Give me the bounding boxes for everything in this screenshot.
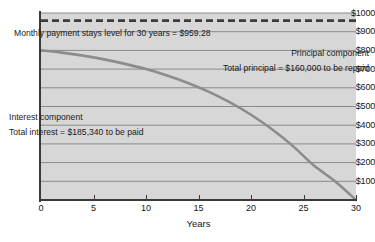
y-axis-tick-label: $300 <box>339 139 375 148</box>
x-axis-tick-mark <box>94 195 95 200</box>
x-axis-tick-label: 20 <box>239 204 263 213</box>
x-axis-tick-label: 5 <box>82 204 106 213</box>
x-axis-tick-mark <box>199 195 200 200</box>
y-axis-tick-label: $100 <box>339 177 375 186</box>
series-layer <box>41 13 356 200</box>
annotation-interest-total: Total interest = $185,340 to be paid <box>9 127 144 137</box>
y-axis-tick-label: $400 <box>339 121 375 130</box>
x-axis-tick-label: 25 <box>292 204 316 213</box>
x-axis-tick-mark <box>356 195 357 200</box>
y-axis-tick-label: $200 <box>339 158 375 167</box>
gridlines-group <box>41 13 356 181</box>
x-axis-title: Years <box>41 218 356 229</box>
annotation-interest-component: Interest component <box>9 112 83 122</box>
x-axis-tick-label: 30 <box>344 204 368 213</box>
y-axis-tick-label: $500 <box>339 102 375 111</box>
annotation-monthly-payment: Monthly payment stays level for 30 years… <box>14 28 211 38</box>
x-axis-tick-mark <box>304 195 305 200</box>
annotation-principal-total: Total principal = $160,000 to be repaid <box>223 63 369 73</box>
y-axis-tick-label: $1000 <box>339 9 375 18</box>
x-axis-tick-label: 10 <box>134 204 158 213</box>
x-axis-tick-mark <box>146 195 147 200</box>
y-axis-line <box>39 11 41 202</box>
y-axis-tick-label: $900 <box>339 27 375 36</box>
y-axis-tick-label: $600 <box>339 83 375 92</box>
annotation-principal-component: Principal component <box>291 48 369 58</box>
x-axis-tick-mark <box>251 195 252 200</box>
x-axis-tick-label: 0 <box>29 204 53 213</box>
x-axis-tick-label: 15 <box>187 204 211 213</box>
mortgage-amortization-chart: $100$200$300$400$500$600$700$800$900$100… <box>0 0 375 242</box>
plot-area <box>41 13 356 200</box>
